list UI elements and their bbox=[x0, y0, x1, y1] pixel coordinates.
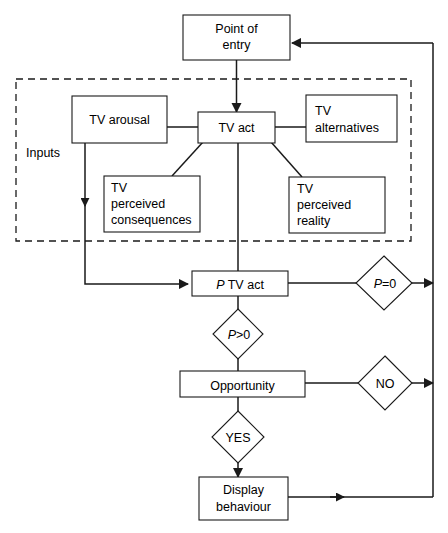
node-tv-perceived-reality-line3: reality bbox=[297, 214, 331, 228]
decision-p-greater-zero-label: P>0 bbox=[228, 328, 251, 342]
node-display-behaviour-line1: Display bbox=[223, 483, 265, 497]
node-opportunity-label: Opportunity bbox=[210, 379, 275, 393]
node-point-of-entry-line1: Point of bbox=[215, 22, 258, 36]
node-tv-perceived-consequences-line1: TV bbox=[111, 181, 128, 195]
decision-p-greater-zero-rest: >0 bbox=[236, 328, 250, 342]
node-tv-perceived-consequences-line3: consequences bbox=[111, 213, 192, 227]
inputs-group-label: Inputs bbox=[26, 146, 60, 160]
node-tv-act-label: TV act bbox=[218, 121, 255, 135]
node-tv-perceived-reality-line2: perceived bbox=[297, 198, 351, 212]
edge-tv-act-to-perceived-consequences bbox=[172, 142, 203, 176]
node-tv-arousal-label: TV arousal bbox=[89, 113, 149, 127]
decision-p-equals-zero-label: P=0 bbox=[374, 277, 397, 291]
decision-p-equals-zero-rest: =0 bbox=[382, 277, 396, 291]
flowchart-diagram: Inputs bbox=[0, 0, 448, 533]
flowchart-canvas: Inputs bbox=[0, 0, 448, 533]
edge-tv-act-to-perceived-reality bbox=[271, 142, 302, 177]
node-p-tv-act-label: P TV act bbox=[216, 278, 264, 292]
node-tv-perceived-consequences-line2: perceived bbox=[111, 197, 165, 211]
node-tv-alternatives-line1: TV bbox=[315, 104, 332, 118]
node-tv-alternatives-line2: alternatives bbox=[315, 121, 379, 135]
node-point-of-entry-line2: entry bbox=[223, 38, 252, 52]
decision-no-label: NO bbox=[376, 377, 395, 391]
node-p-tv-act-rest: TV act bbox=[224, 278, 264, 292]
node-display-behaviour-line2: behaviour bbox=[216, 500, 271, 514]
node-tv-perceived-reality-line1: TV bbox=[297, 182, 314, 196]
decision-yes-label: YES bbox=[225, 431, 250, 445]
